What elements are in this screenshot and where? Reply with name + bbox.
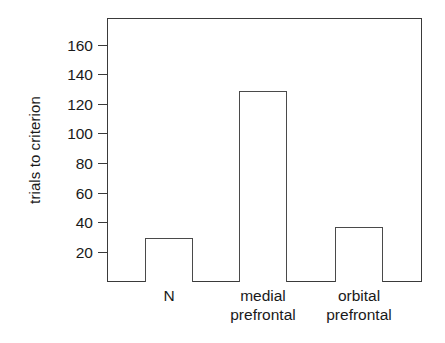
y-tick-mark-100 [98, 133, 107, 134]
y-tick-mark-40 [98, 222, 107, 223]
x-tick-label-medial-prefrontal: medial prefrontal [215, 286, 311, 324]
y-axis-tick-label-group: 160 140 120 100 80 60 40 20 [47, 0, 93, 343]
x-tick-label-orbital-line1: orbital [338, 287, 380, 304]
y-tick-mark-140 [98, 74, 107, 75]
x-axis-tick-label-group: N medial prefrontal orbital prefrontal [107, 286, 422, 342]
x-tick-label-medial-line1: medial [240, 287, 286, 304]
y-tick-label-40: 40 [47, 215, 93, 230]
y-tick-mark-80 [98, 163, 107, 164]
y-tick-mark-160 [98, 45, 107, 46]
bar-series-group [107, 18, 422, 282]
y-tick-label-80: 80 [47, 156, 93, 171]
y-tick-label-120: 120 [47, 97, 93, 112]
y-tick-label-160: 160 [47, 38, 93, 53]
y-tick-mark-60 [98, 193, 107, 194]
bar-n [145, 238, 193, 282]
x-tick-label-orbital-line2: prefrontal [311, 305, 407, 324]
x-tick-label-n: N [121, 286, 217, 305]
x-tick-label-n-line1: N [163, 287, 174, 304]
y-tick-label-20: 20 [47, 245, 93, 260]
bar-medial-prefrontal [239, 91, 287, 282]
y-tick-label-60: 60 [47, 186, 93, 201]
y-tick-label-140: 140 [47, 67, 93, 82]
y-axis-title: trials to criterion [22, 20, 48, 280]
bar-chart: trials to criterion 160 140 120 100 80 6… [0, 0, 445, 343]
y-tick-mark-20 [98, 252, 107, 253]
x-tick-label-orbital-prefrontal: orbital prefrontal [311, 286, 407, 324]
y-tick-label-100: 100 [47, 126, 93, 141]
x-tick-label-medial-line2: prefrontal [215, 305, 311, 324]
y-tick-mark-120 [98, 104, 107, 105]
bar-orbital-prefrontal [335, 227, 383, 282]
